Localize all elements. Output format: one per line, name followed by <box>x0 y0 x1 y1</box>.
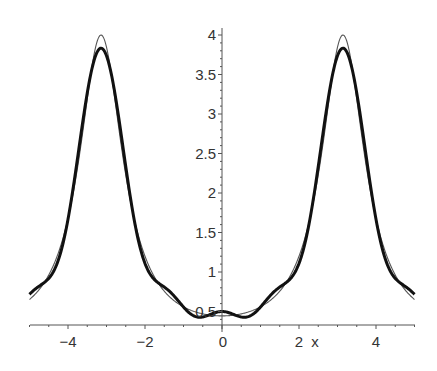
y-axis: 0.511.522.533.54 <box>195 26 222 332</box>
y-tick-label: 4 <box>208 26 216 43</box>
y-axis-minor-ticks <box>218 35 222 319</box>
x-axis-tick-labels: −4−2024 <box>59 333 380 350</box>
x-axis-label: x <box>311 333 319 350</box>
y-tick-label: 2 <box>208 184 216 201</box>
y-tick-label: 2.5 <box>195 145 216 162</box>
y-tick-label: 3.5 <box>195 66 216 83</box>
x-tick-label: 0 <box>219 333 227 350</box>
chart-plot: −4−2024 x 0.511.522.533.54 <box>0 0 437 371</box>
y-axis-tick-labels: 0.511.522.533.54 <box>195 26 216 320</box>
y-tick-label: 1 <box>208 263 216 280</box>
x-tick-label: 2 <box>295 333 303 350</box>
x-tick-label: −4 <box>59 333 76 350</box>
x-tick-label: −2 <box>136 333 153 350</box>
y-tick-label: 0.5 <box>195 303 216 320</box>
x-tick-label: 4 <box>372 333 380 350</box>
y-tick-label: 3 <box>208 105 216 122</box>
y-tick-label: 1.5 <box>195 224 216 241</box>
